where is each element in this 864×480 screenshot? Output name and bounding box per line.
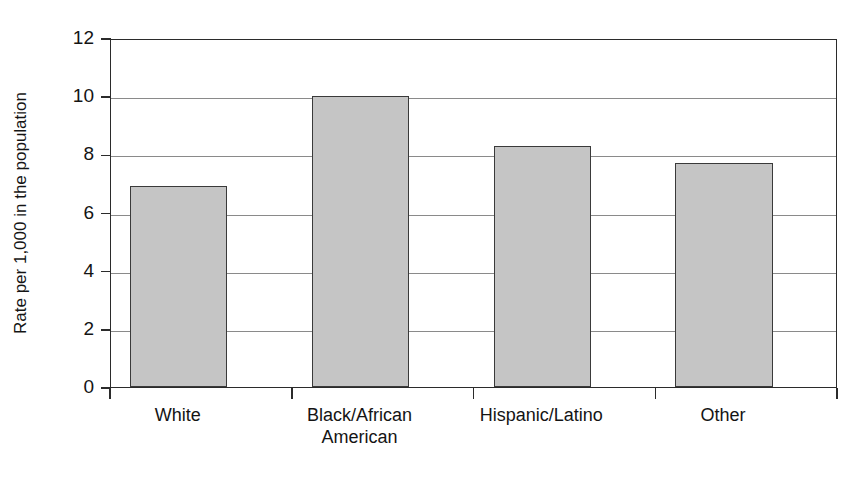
gridline [111, 156, 836, 157]
y-axis-tick-label-box: 6 [28, 203, 94, 223]
x-axis-category-line: Black/African [269, 404, 451, 426]
x-axis-tick [473, 388, 475, 399]
y-axis-tick-label: 4 [34, 261, 94, 280]
x-axis-category-label: Black/AfricanAmerican [269, 404, 451, 448]
y-axis-tick-label-box: 10 [28, 86, 94, 106]
x-axis-tick [836, 388, 838, 399]
x-axis-category-line: Hispanic/Latino [450, 404, 632, 426]
x-axis-tick [655, 388, 657, 399]
x-axis-category-label: Other [632, 404, 814, 426]
bar [312, 96, 409, 387]
y-axis-tick-label: 2 [34, 319, 94, 338]
x-axis-category-line: Other [632, 404, 814, 426]
y-axis-tick-label: 0 [34, 377, 94, 396]
x-axis-category-line: White [87, 404, 269, 426]
plot-area [110, 39, 837, 388]
x-axis-category-line: American [269, 426, 451, 448]
y-axis-tick-label-box: 0 [28, 377, 94, 397]
bar [130, 186, 227, 387]
bar [675, 163, 772, 387]
y-axis-tick-label-box: 8 [28, 144, 94, 164]
bar-chart-figure: Rate per 1,000 in the population 0246810… [0, 0, 864, 480]
y-axis-tick-label: 8 [34, 144, 94, 163]
gridline [111, 98, 836, 99]
x-axis-tick [109, 388, 111, 399]
x-axis-category-label: Hispanic/Latino [450, 404, 632, 426]
bar [494, 146, 591, 387]
y-axis-tick-label-box: 12 [28, 28, 94, 48]
y-axis-tick-label: 10 [34, 86, 94, 105]
y-axis-tick-label-box: 2 [28, 319, 94, 339]
y-axis-tick-label-box: 4 [28, 261, 94, 281]
y-axis-tick-label: 12 [34, 28, 94, 47]
y-axis-tick-label: 6 [34, 203, 94, 222]
x-axis-category-label: White [87, 404, 269, 426]
x-axis-tick [291, 388, 293, 399]
